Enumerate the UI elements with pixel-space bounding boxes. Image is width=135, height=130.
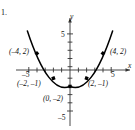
point-label-4-2: (4, 2)	[110, 48, 126, 56]
coordinate-plane-svg	[0, 0, 135, 130]
x-axis-label: x	[128, 62, 131, 70]
y-tick-label-5: 5	[61, 31, 65, 39]
y-axis	[67, 18, 73, 126]
y-axis-label: y	[70, 13, 73, 21]
point-label-neg4-2: (–4, 2)	[9, 48, 29, 56]
point-label-neg2-neg1: (–2, –1)	[17, 80, 41, 88]
marker-point-0--2	[68, 85, 71, 88]
x-tick-label-5: 5	[111, 71, 115, 79]
math-figure-parabola: 1.	[0, 0, 135, 130]
point-label-0-neg2: (0, –2)	[43, 95, 63, 103]
point-label-2-neg1: (2, –1)	[88, 80, 108, 88]
y-tick-label-neg5: –5	[58, 114, 66, 122]
x-tick-label-neg5: –5	[22, 71, 30, 79]
